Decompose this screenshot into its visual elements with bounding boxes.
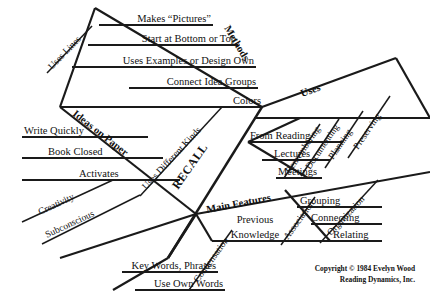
label-use-own-words: Use Own Words xyxy=(154,278,223,289)
label-creativity: Creativity xyxy=(36,191,76,217)
label-previous: Previous xyxy=(237,214,274,225)
label-subconscious: Subconscious xyxy=(43,207,96,239)
label-uses-lines: Uses Lines xyxy=(46,33,84,71)
uses-right-edge xyxy=(396,58,430,118)
copyright-line-1: Copyright © 1984 Evelyn Wood xyxy=(315,264,416,273)
fishbone-diagram: Makes “Pictures” Start at Bottom or Top … xyxy=(0,0,430,300)
label-activates: Activates xyxy=(79,168,119,179)
label-key-words-phrases: Key Words, Phrases xyxy=(132,260,216,271)
uses-upper-edge xyxy=(262,58,396,107)
label-uses-examples: Uses Examples or Design Own xyxy=(123,55,255,66)
label-connect-idea-groups: Connect Idea Groups xyxy=(167,76,256,87)
label-main-features: Main Features xyxy=(205,192,271,215)
branch-uses: From Reading Lectures Meetings Rememberi… xyxy=(248,58,430,178)
branch-methods: Makes “Pictures” Start at Bottom or Top … xyxy=(46,8,263,107)
label-knowledge: Knowledge xyxy=(231,229,280,240)
label-book-closed: Book Closed xyxy=(48,146,103,157)
copyright-block: Copyright © 1984 Evelyn Wood Reading Dyn… xyxy=(315,264,416,284)
label-preserving: Preserving xyxy=(351,111,383,151)
label-makes-pictures: Makes “Pictures” xyxy=(137,13,211,24)
label-start-bottom-top: Start at Bottom or Top xyxy=(142,33,236,44)
center-group: Uses Different Kinds RECALL xyxy=(139,107,222,196)
main-features-left-edge xyxy=(196,214,212,241)
label-colors: Colors xyxy=(233,95,261,106)
label-write-quickly: Write Quickly xyxy=(24,125,85,136)
label-uses: Uses xyxy=(299,82,322,99)
copyright-line-2: Reading Dynamics, Inc. xyxy=(340,275,415,284)
